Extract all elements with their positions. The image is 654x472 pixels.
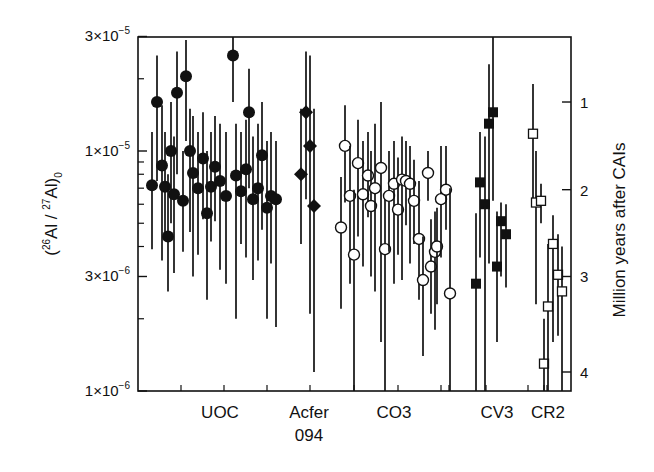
data-point-open-square xyxy=(529,129,538,138)
right-axis-title: Million years after CAIs xyxy=(610,143,629,318)
data-point-filled-diamond xyxy=(303,139,317,153)
series-co3 xyxy=(336,102,456,391)
data-point-open-circle xyxy=(370,183,381,194)
category-label: CR2 xyxy=(531,403,565,422)
data-series xyxy=(146,37,567,391)
right-axis-ticks: 1234 xyxy=(562,94,588,381)
chart-canvas: 3×10−51×10−53×10−61×10−6 1234 UOCAcfer09… xyxy=(0,0,654,472)
data-point-filled-circle xyxy=(156,160,168,172)
data-point-open-circle xyxy=(340,140,351,151)
data-point-filled-circle xyxy=(214,175,226,187)
series-cv3 xyxy=(471,37,511,391)
data-point-filled-square xyxy=(471,279,481,289)
data-point-filled-square xyxy=(501,229,511,239)
data-point-filled-circle xyxy=(243,106,255,118)
right-axis-tick-label: 2 xyxy=(580,182,588,199)
series-uoc xyxy=(146,37,282,327)
data-point-open-circle xyxy=(336,222,347,233)
data-point-filled-circle xyxy=(177,195,189,207)
data-point-open-circle xyxy=(349,249,360,260)
data-point-filled-circle xyxy=(171,87,183,99)
data-point-open-square xyxy=(549,239,558,248)
data-point-open-circle xyxy=(376,162,387,173)
data-point-filled-circle xyxy=(180,70,192,82)
data-point-filled-diamond xyxy=(307,199,321,213)
data-point-open-square xyxy=(558,287,567,296)
y-tick-label: 3×10−5 xyxy=(85,25,131,44)
data-point-filled-square xyxy=(496,216,506,226)
y-axis-tick-labels: 3×10−51×10−53×10−61×10−6 xyxy=(85,25,131,399)
y-tick-label: 3×10−6 xyxy=(85,265,131,284)
data-point-open-circle xyxy=(353,158,364,169)
category-label-line2: 094 xyxy=(295,426,323,445)
category-label: CV3 xyxy=(480,403,513,422)
data-point-open-circle xyxy=(358,189,369,200)
data-point-open-circle xyxy=(409,195,420,206)
data-point-open-square xyxy=(544,302,553,311)
data-point-filled-circle xyxy=(146,179,158,191)
data-point-filled-square xyxy=(488,107,498,117)
data-point-filled-circle xyxy=(270,193,282,205)
data-point-filled-circle xyxy=(184,145,196,157)
y-tick-label: 1×10−5 xyxy=(85,140,131,159)
right-axis-tick-label: 4 xyxy=(580,364,588,381)
data-point-filled-circle xyxy=(162,231,174,243)
right-axis-tick-label: 1 xyxy=(580,94,588,111)
category-labels: UOCAcfer094CO3CV3CR2 xyxy=(201,403,565,445)
data-point-open-circle xyxy=(384,190,395,201)
series-cr2 xyxy=(529,84,567,391)
data-point-open-circle xyxy=(418,275,429,286)
category-label: Acfer xyxy=(289,403,329,422)
data-point-filled-square xyxy=(475,177,485,187)
y-tick-label: 1×10−6 xyxy=(85,380,131,399)
data-point-open-square xyxy=(537,196,546,205)
data-point-open-circle xyxy=(445,288,456,299)
category-label: UOC xyxy=(201,403,239,422)
data-point-filled-circle xyxy=(240,163,252,175)
y-axis-title: (26Al / 27Al)0 xyxy=(41,172,64,256)
data-point-filled-circle xyxy=(220,190,232,202)
y-axis-ticks xyxy=(138,36,147,391)
data-point-open-circle xyxy=(423,167,434,178)
right-axis-tick-label: 3 xyxy=(580,268,588,285)
data-point-filled-circle xyxy=(165,145,177,157)
category-label: CO3 xyxy=(377,403,412,422)
series-acfer-094 xyxy=(294,51,321,372)
x-axis-ticks xyxy=(181,385,547,391)
data-point-filled-circle xyxy=(227,49,239,61)
